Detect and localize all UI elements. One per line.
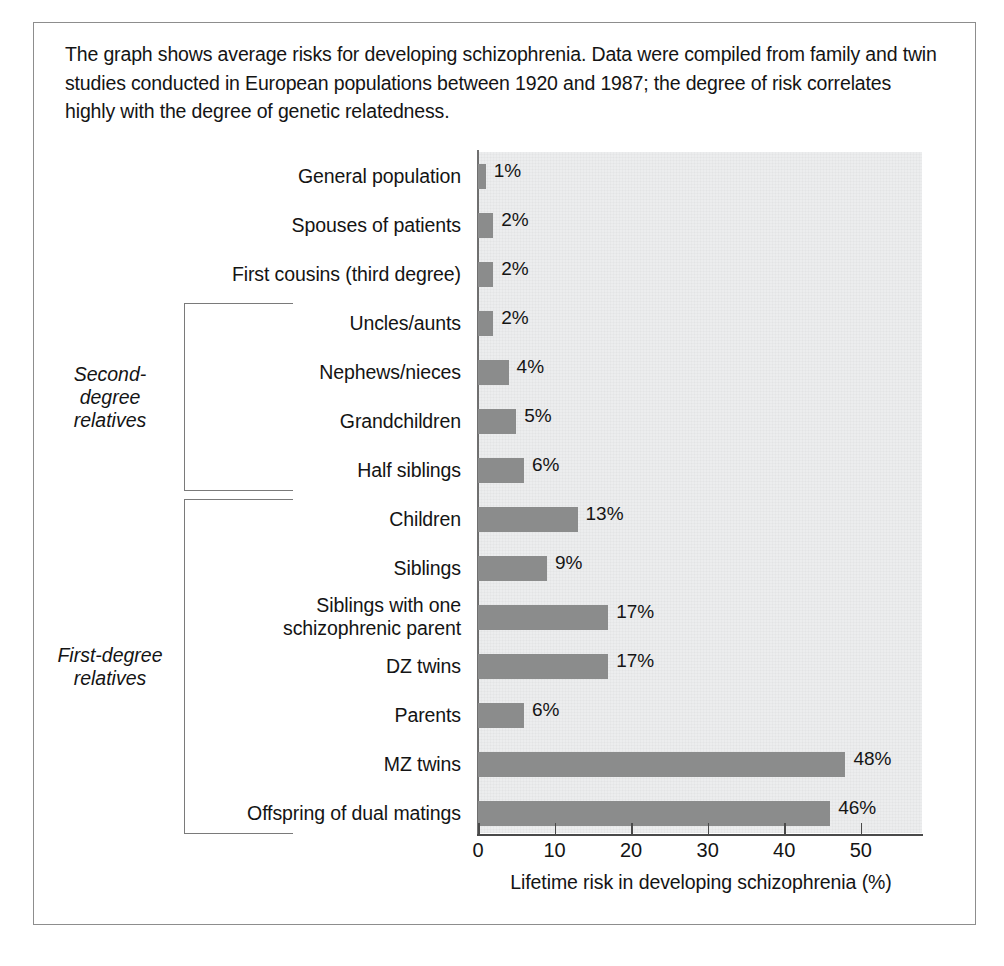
category-label: Parents: [394, 704, 461, 727]
x-axis-tick-label: 20: [620, 839, 642, 862]
group-bracket-first-degree: [184, 499, 293, 834]
bar[interactable]: [478, 556, 547, 581]
category-label: Grandchildren: [340, 410, 461, 433]
x-axis-line: [477, 834, 923, 836]
bar[interactable]: [478, 605, 608, 630]
x-axis-title: Lifetime risk in developing schizophreni…: [478, 871, 924, 894]
group-bracket-second-degree: [184, 303, 293, 491]
category-label: General population: [298, 165, 461, 188]
bar-value-label: 1%: [494, 160, 521, 182]
x-axis-tick-label: 0: [472, 839, 483, 862]
x-axis-tick: [555, 823, 557, 834]
bar-value-label: 6%: [532, 454, 559, 476]
bar[interactable]: [478, 801, 830, 826]
bar-value-label: 2%: [501, 258, 528, 280]
bar[interactable]: [478, 458, 524, 483]
category-label: DZ twins: [386, 655, 461, 678]
bar-value-label: 2%: [501, 209, 528, 231]
category-label: Siblings with one schizophrenic parent: [283, 594, 461, 640]
category-label: Half siblings: [357, 459, 461, 482]
x-axis-tick-label: 50: [850, 839, 872, 862]
category-label: MZ twins: [384, 753, 461, 776]
bar[interactable]: [478, 703, 524, 728]
bar[interactable]: [478, 213, 493, 238]
bar-value-label: 2%: [501, 307, 528, 329]
bar[interactable]: [478, 311, 493, 336]
x-axis-tick: [708, 823, 710, 834]
x-axis-tick: [478, 823, 480, 834]
x-axis-tick-label: 40: [773, 839, 795, 862]
bar[interactable]: [478, 507, 578, 532]
category-label: Uncles/aunts: [349, 312, 461, 335]
bar[interactable]: [478, 654, 608, 679]
x-axis-tick: [784, 823, 786, 834]
x-axis-tick-label: 10: [543, 839, 565, 862]
bar-chart: 1%2%2%2%4%5%6%13%9%17%17%6%48%46% Genera…: [34, 23, 975, 924]
bar[interactable]: [478, 262, 493, 287]
bar[interactable]: [478, 409, 516, 434]
bar-value-label: 17%: [616, 601, 654, 623]
category-label: Siblings: [394, 557, 462, 580]
bar-value-label: 9%: [555, 552, 582, 574]
bar-value-label: 48%: [853, 748, 891, 770]
x-axis-tick-label: 30: [697, 839, 719, 862]
group-label-first-degree: First-degree relatives: [44, 644, 176, 690]
bar[interactable]: [478, 752, 845, 777]
category-label: Children: [389, 508, 461, 531]
x-axis-tick: [861, 823, 863, 834]
x-axis-tick: [631, 823, 633, 834]
bar[interactable]: [478, 360, 509, 385]
category-label: Nephews/nieces: [319, 361, 461, 384]
figure-panel: The graph shows average risks for develo…: [33, 22, 976, 925]
y-axis-line: [477, 150, 479, 836]
bar[interactable]: [478, 164, 486, 189]
group-label-second-degree: Second- degree relatives: [44, 363, 176, 432]
bar-value-label: 6%: [532, 699, 559, 721]
category-label: First cousins (third degree): [232, 263, 461, 286]
bar-value-label: 5%: [524, 405, 551, 427]
bar-value-label: 46%: [838, 797, 876, 819]
bar-value-label: 4%: [517, 356, 544, 378]
bar-value-label: 17%: [616, 650, 654, 672]
plot-area: [478, 152, 922, 833]
bar-value-label: 13%: [586, 503, 624, 525]
category-label: Spouses of patients: [292, 214, 461, 237]
